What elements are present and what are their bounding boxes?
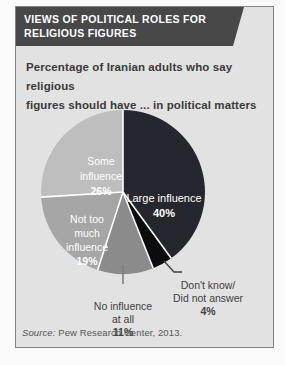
source-prefix: Source: [22,327,55,338]
source-text: Pew Research Center, 2013. [55,327,182,338]
label-dont-know-text: Don't know/ Did not answer [173,279,243,304]
label-large-influence-text: Large influence [126,192,201,204]
label-dont-know: Don't know/ Did not answer 4% [156,266,260,331]
label-not-too-much-influence: Not too much influence 19% [54,198,120,282]
label-dont-know-pct: 4% [156,305,260,318]
label-no-influence-text: No influence at all [94,300,152,325]
label-large-influence: Large influence 40% [104,176,224,236]
infographic-card: VIEWS OF POLITICAL ROLES FOR RELIGIOUS F… [15,6,274,348]
label-large-influence-pct: 40% [104,206,224,221]
source-line: Source: Pew Research Center, 2013. [22,327,268,338]
label-not-too-much-influence-text: Not too much influence [66,213,108,253]
label-not-too-much-influence-pct: 19% [54,254,120,268]
